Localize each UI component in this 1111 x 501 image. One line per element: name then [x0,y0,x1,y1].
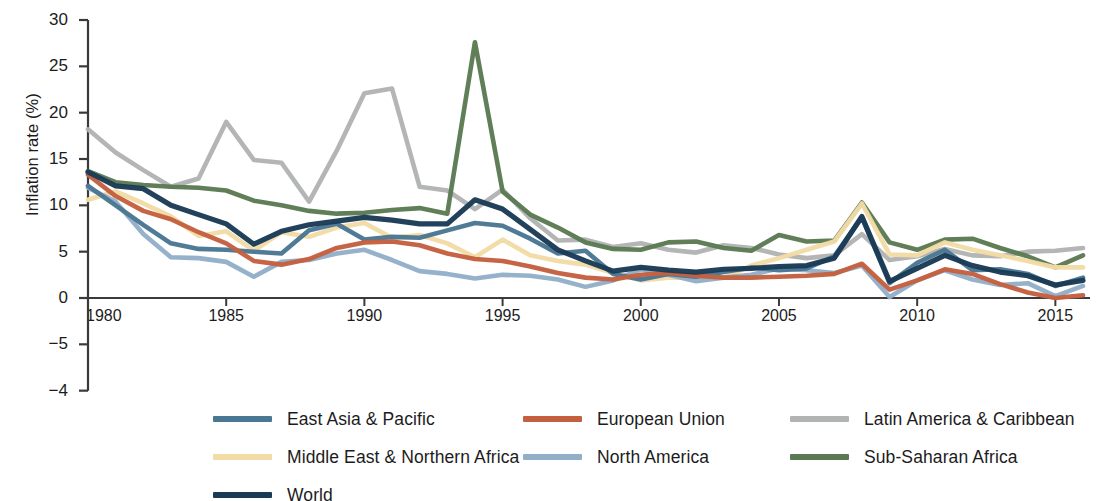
chart-legend: East Asia & PacificEuropean UnionLatin A… [213,404,1093,501]
legend-item-label: European Union [597,409,725,430]
series-line-east-asia-pacific [88,186,1083,286]
legend-item-label: North America [597,447,709,468]
legend-item-label: Latin America & Caribbean [864,409,1075,430]
legend-row: East Asia & PacificEuropean UnionLatin A… [213,404,1093,442]
line-swatch-icon [790,454,849,460]
legend-item[interactable]: Latin America & Caribbean [790,404,1090,434]
legend-item-label: World [287,485,333,501]
legend-item-label: East Asia & Pacific [287,409,435,430]
legend-row: Middle East & Northern AfricaNorth Ameri… [213,442,1093,480]
legend-item[interactable]: East Asia & Pacific [213,404,523,434]
legend-item[interactable]: North America [523,442,790,472]
legend-item[interactable]: European Union [523,404,790,434]
legend-item-label: Middle East & Northern Africa [287,447,519,468]
line-swatch-icon [790,416,849,422]
line-swatch-icon [523,454,582,460]
line-swatch-icon [213,454,272,460]
legend-item[interactable]: World [213,480,523,501]
legend-item-label: Sub-Saharan Africa [864,447,1018,468]
legend-item[interactable]: Middle East & Northern Africa [213,442,523,472]
line-swatch-icon [213,492,272,498]
chart-figure: Inflation rate (%) 302520151050−5−4 1980… [0,0,1111,501]
legend-item[interactable]: Sub-Saharan Africa [790,442,1090,472]
legend-row: World [213,480,1093,501]
line-swatch-icon [523,416,582,422]
line-swatch-icon [213,416,272,422]
